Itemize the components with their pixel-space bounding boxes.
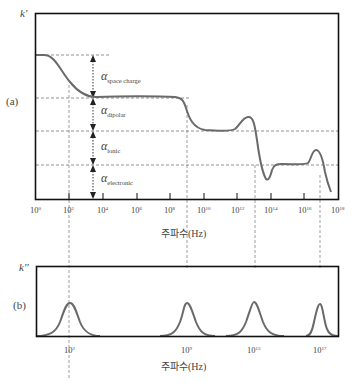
alpha-space-charge-label: space charge: [107, 77, 140, 84]
a-alpha-labels: αspace charge αdipolar αionic αelectroni…: [101, 69, 141, 186]
svg-text:1013: 1013: [247, 345, 261, 355]
a-xtick-labels: 100 102 104 106 108 1010 1012 1014 1016 …: [30, 205, 345, 215]
svg-text:αelectronic: αelectronic: [101, 171, 133, 186]
svg-text:1017: 1017: [313, 345, 327, 355]
k-prime-curve: [36, 55, 331, 192]
svg-text:109: 109: [181, 345, 193, 355]
svg-text:102: 102: [64, 345, 76, 355]
a-xlabel: 주파수(Hz): [161, 228, 206, 240]
svg-text:1018: 1018: [331, 205, 345, 215]
b-ylabel: k'': [19, 261, 29, 273]
svg-text:104: 104: [97, 205, 109, 215]
svg-text:102: 102: [63, 205, 75, 215]
alpha-ionic-label: ionic: [107, 147, 120, 154]
a-xticks: [69, 193, 304, 199]
alpha-dipolar-label: dipolar: [107, 111, 126, 118]
svg-text:1012: 1012: [231, 205, 245, 215]
a-ylabel: k': [20, 7, 28, 19]
panel-b: k'' (b) 102 109 1013 1017 주파수(Hz): [13, 261, 339, 373]
b-panel-label: (b): [13, 299, 26, 312]
svg-text:1010: 1010: [197, 205, 211, 215]
b-xtick-labels: 102 109 1013 1017: [64, 345, 327, 355]
svg-text:αdipolar: αdipolar: [101, 103, 127, 118]
a-panel-label: (a): [6, 95, 19, 108]
svg-text:1016: 1016: [298, 205, 312, 215]
panel-a: k' (a) αs: [6, 7, 345, 380]
svg-text:100: 100: [30, 205, 42, 215]
svg-text:αionic: αionic: [101, 139, 120, 154]
k-double-prime-peaks: [36, 302, 338, 336]
svg-text:108: 108: [164, 205, 176, 215]
svg-text:106: 106: [131, 205, 143, 215]
b-xlabel: 주파수(Hz): [161, 361, 206, 373]
svg-text:αspace charge: αspace charge: [101, 69, 141, 84]
svg-text:1014: 1014: [264, 205, 278, 215]
dielectric-permittivity-figure: k' (a) αs: [0, 0, 358, 386]
alpha-electronic-label: electronic: [107, 179, 133, 186]
